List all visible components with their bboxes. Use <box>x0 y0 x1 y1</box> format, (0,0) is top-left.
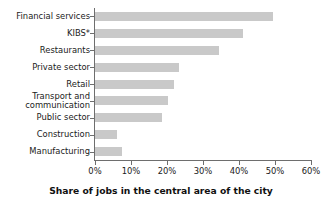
category-label: Manufacturing <box>0 147 90 156</box>
x-axis-tick-label: 0% <box>75 166 115 176</box>
x-axis-tick-label: 30% <box>183 166 223 176</box>
category-label: Private sector <box>0 63 90 72</box>
bar <box>95 80 174 89</box>
y-axis-tick <box>90 50 95 51</box>
x-axis-title: Share of jobs in the central area of the… <box>0 185 322 196</box>
x-axis-tick <box>203 161 204 165</box>
bar <box>95 147 122 156</box>
bar <box>95 29 243 38</box>
bar <box>95 130 117 139</box>
bar <box>95 12 273 21</box>
category-label: Construction <box>0 130 90 139</box>
y-axis-tick <box>90 67 95 68</box>
category-label: Public sector <box>0 113 90 122</box>
bar <box>95 63 179 72</box>
y-axis-tick <box>90 33 95 34</box>
y-axis-tick <box>90 152 95 153</box>
x-axis-tick-label: 50% <box>255 166 295 176</box>
x-axis-tick <box>131 161 132 165</box>
x-axis-tick-label: 10% <box>111 166 151 176</box>
x-axis-tick <box>311 161 312 165</box>
bar <box>95 96 168 105</box>
x-axis-tick <box>275 161 276 165</box>
x-axis-tick-label: 40% <box>219 166 259 176</box>
bar <box>95 113 162 122</box>
bar <box>95 46 219 55</box>
y-axis-tick <box>90 84 95 85</box>
category-label: Restaurants <box>0 46 90 55</box>
x-axis-tick <box>239 161 240 165</box>
category-label: Retail <box>0 80 90 89</box>
y-axis-tick <box>90 16 95 17</box>
category-label: KIBS* <box>0 29 90 38</box>
x-axis-tick <box>167 161 168 165</box>
category-axis: Financial servicesKIBS*RestaurantsPrivat… <box>0 8 90 160</box>
category-label: Financial services <box>0 12 90 21</box>
y-axis-tick <box>90 101 95 102</box>
category-label: Transport and communication <box>0 92 90 110</box>
plot-area <box>95 8 311 160</box>
bar-chart: Financial servicesKIBS*RestaurantsPrivat… <box>0 0 322 205</box>
y-axis-tick <box>90 135 95 136</box>
x-axis-tick-label: 60% <box>291 166 322 176</box>
y-axis-tick <box>90 118 95 119</box>
x-axis-tick <box>95 161 96 165</box>
x-axis-tick-label: 20% <box>147 166 187 176</box>
